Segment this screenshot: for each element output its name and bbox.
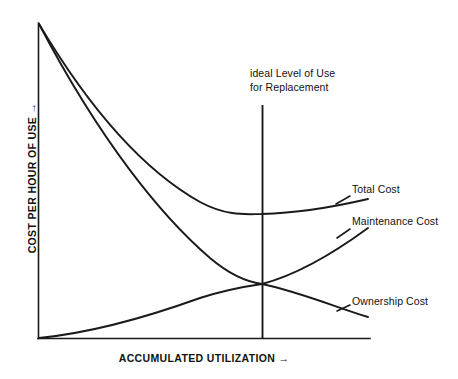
cost-per-hour-chart-figure: COST PER HOUR OF USE → ACCUMULATED UTILI… bbox=[0, 0, 458, 379]
ownership-cost-label: Ownership Cost bbox=[352, 295, 428, 307]
maintenance-cost-curve bbox=[39, 228, 368, 338]
total-cost-label: Total Cost bbox=[352, 183, 400, 195]
total-cost-curve bbox=[39, 24, 368, 214]
y-axis-title: COST PER HOUR OF USE → bbox=[26, 83, 38, 273]
maintenance-cost-label: Maintenance Cost bbox=[352, 215, 438, 227]
maintenance-cost-leader-line bbox=[337, 229, 350, 238]
ideal-level-annotation-line-1: ideal Level of Use bbox=[250, 67, 335, 81]
x-axis-title: ACCUMULATED UTILIZATION → bbox=[38, 352, 370, 364]
ideal-level-annotation-line-2: for Replacement bbox=[250, 81, 335, 95]
ideal-level-annotation: ideal Level of Use for Replacement bbox=[250, 67, 335, 94]
